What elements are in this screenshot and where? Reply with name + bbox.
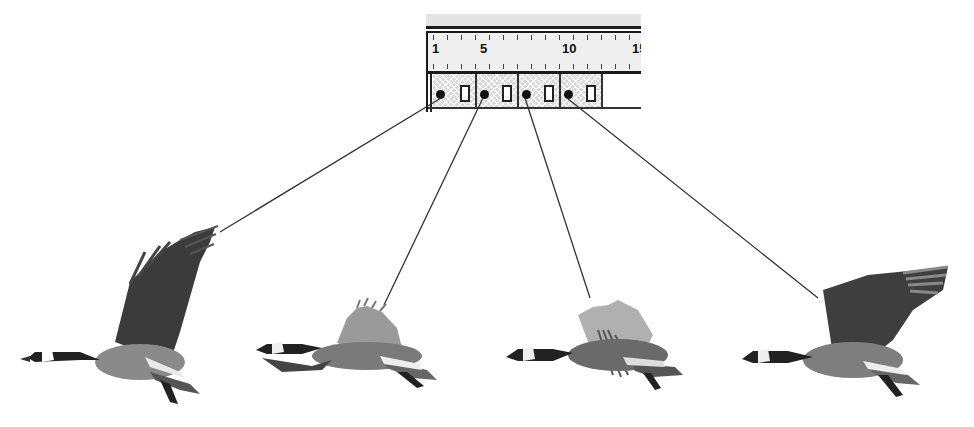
ruler-tick: [559, 35, 560, 40]
ruler-tick: [475, 35, 476, 40]
ruler-label-1: 1: [432, 42, 439, 55]
ruler-tick: [573, 35, 574, 40]
ruler-tick: [461, 35, 462, 40]
ruler-tick: [545, 35, 546, 40]
ruler-tick: [503, 64, 504, 69]
ruler-tick: [517, 35, 518, 40]
ruler-tick: [433, 35, 434, 40]
goose-wings-mid-down-image: [252, 298, 442, 393]
ruler-tick: [601, 64, 602, 69]
end-frame-marker-icon: [502, 85, 512, 102]
ruler-label-15: 15: [632, 42, 641, 55]
ruler-tick: [587, 64, 588, 69]
connector-line-2: [384, 98, 483, 305]
ruler-tick: [447, 64, 448, 69]
ruler-tick: [531, 35, 532, 40]
frame-ruler: [428, 33, 641, 71]
connector-line-1: [220, 98, 441, 232]
ruler-tick: [503, 35, 504, 40]
ruler-tick: [559, 64, 560, 69]
ruler-tick: [517, 64, 518, 69]
ruler-tick: [545, 64, 546, 69]
goose-wings-down-image: [503, 295, 693, 395]
timeline-panel: 1 5 10 15: [426, 14, 641, 112]
animation-keyframe-diagram: 1 5 10 15: [0, 0, 974, 427]
ruler-tick: [629, 64, 630, 69]
ruler-tick: [447, 35, 448, 40]
end-frame-marker-icon: [460, 85, 470, 102]
ruler-tick: [475, 64, 476, 69]
ruler-tick: [573, 64, 574, 69]
ruler-tick: [587, 35, 588, 40]
keyframe-cell-3[interactable]: [519, 74, 561, 107]
keyframe-dot-icon: [436, 90, 445, 99]
ruler-tick: [629, 35, 630, 40]
end-frame-marker-icon: [586, 85, 596, 102]
keyframe-dot-icon: [564, 90, 573, 99]
frames-bottom-border: [428, 107, 641, 109]
ruler-tick: [489, 35, 490, 40]
keyframe-cell-1[interactable]: [433, 74, 477, 107]
ruler-tick: [489, 64, 490, 69]
goose-wings-up-image: [20, 222, 220, 407]
ruler-tick: [615, 35, 616, 40]
ruler-label-10: 10: [562, 42, 576, 55]
connector-line-3: [525, 98, 590, 298]
ruler-tick: [531, 64, 532, 69]
ruler-tick: [433, 64, 434, 69]
timeline-header-band: [426, 14, 641, 26]
ruler-tick: [461, 64, 462, 69]
keyframe-cell-4[interactable]: [561, 74, 603, 107]
end-frame-marker-icon: [544, 85, 554, 102]
keyframe-dot-icon: [480, 90, 489, 99]
goose-wings-mid-up-image: [738, 265, 953, 400]
keyframe-dot-icon: [522, 90, 531, 99]
timeline-top-border: [426, 26, 641, 29]
ruler-tick: [601, 35, 602, 40]
ruler-tick: [615, 64, 616, 69]
keyframe-cell-2[interactable]: [477, 74, 519, 107]
ruler-label-5: 5: [480, 42, 487, 55]
